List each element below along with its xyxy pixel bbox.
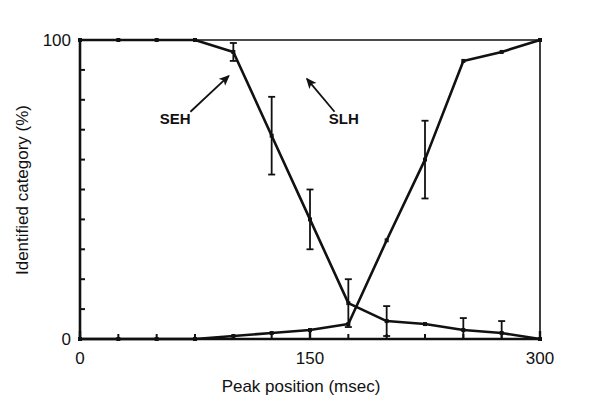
data-point-seh <box>346 301 350 305</box>
data-point-seh <box>270 134 274 138</box>
data-point-slh <box>385 238 389 242</box>
data-point-seh <box>78 38 82 42</box>
data-point-slh <box>116 337 120 341</box>
data-point-slh <box>193 337 197 341</box>
data-point-slh <box>538 38 542 42</box>
data-point-seh <box>423 322 427 326</box>
data-point-seh <box>500 331 504 335</box>
data-point-seh <box>116 38 120 42</box>
data-point-slh <box>500 50 504 54</box>
y-tick-label: 0 <box>62 330 71 349</box>
x-tick-label: 300 <box>526 349 554 368</box>
data-point-slh <box>423 158 427 162</box>
data-point-slh <box>346 322 350 326</box>
data-point-slh <box>155 337 159 341</box>
data-point-seh <box>538 337 542 341</box>
data-point-seh <box>193 38 197 42</box>
y-axis-label: Identified category (%) <box>13 105 32 275</box>
data-point-slh <box>270 331 274 335</box>
y-tick-label: 100 <box>43 31 71 50</box>
curve-label-slh: SLH <box>329 110 359 127</box>
data-point-seh <box>385 319 389 323</box>
data-point-seh <box>461 328 465 332</box>
data-point-slh <box>78 337 82 341</box>
x-tick-label: 150 <box>296 349 324 368</box>
curve-label-seh: SEH <box>160 110 191 127</box>
data-point-seh <box>231 50 235 54</box>
identification-function-chart: 0150300 0100 SEHSLH Peak position (msec)… <box>0 0 602 411</box>
data-point-seh <box>308 217 312 221</box>
data-point-slh <box>308 328 312 332</box>
data-point-seh <box>155 38 159 42</box>
x-axis-label: Peak position (msec) <box>222 377 381 396</box>
data-point-slh <box>231 334 235 338</box>
figure-panel: 0150300 0100 SEHSLH Peak position (msec)… <box>0 0 602 411</box>
x-tick-label: 0 <box>75 349 84 368</box>
data-point-slh <box>461 59 465 63</box>
